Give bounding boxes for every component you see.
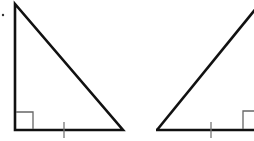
right-triangle [156, 6, 254, 138]
left-triangle [15, 4, 123, 138]
left-right-angle-marker [16, 112, 33, 129]
right-triangle-hypotenuse [157, 6, 254, 130]
right-right-angle-marker [243, 111, 254, 129]
edge-dot [2, 14, 4, 16]
left-triangle-outline [15, 4, 123, 130]
congruent-right-triangles-diagram [0, 0, 254, 141]
